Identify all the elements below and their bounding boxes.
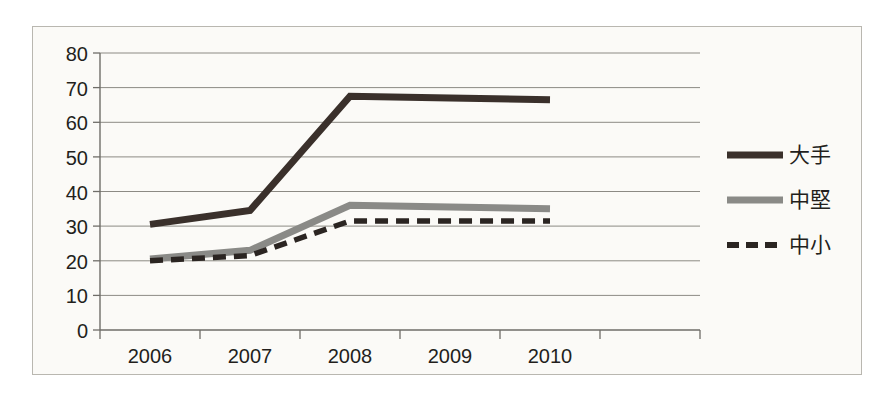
line-chart: 80 70 60 50 40 30 20 10 0 2006 2007 2008… [0, 0, 892, 406]
x-tick-label: 2009 [428, 345, 473, 367]
legend-item-large: 大手 [727, 143, 831, 167]
y-tick-label: 60 [66, 112, 88, 134]
series-group [150, 96, 550, 260]
y-axis-tickmarks [93, 53, 100, 330]
chart-container: 80 70 60 50 40 30 20 10 0 2006 2007 2008… [0, 0, 892, 406]
chart-legend: 大手 中堅 中小 [727, 143, 831, 257]
y-tick-label: 80 [66, 43, 88, 65]
y-tick-label: 20 [66, 251, 88, 273]
y-tick-label: 0 [77, 320, 88, 342]
x-tick-label: 2008 [328, 345, 373, 367]
x-tick-label: 2006 [128, 345, 173, 367]
x-axis-tickmarks [100, 330, 700, 339]
legend-label: 大手 [789, 143, 831, 167]
y-tick-label: 50 [66, 147, 88, 169]
legend-item-small: 中小 [727, 233, 831, 257]
y-axis-labels: 80 70 60 50 40 30 20 10 0 [66, 43, 88, 342]
legend-label: 中小 [789, 233, 831, 257]
y-tick-label: 70 [66, 78, 88, 100]
y-tick-label: 10 [66, 285, 88, 307]
x-tick-label: 2010 [528, 345, 573, 367]
legend-label: 中堅 [789, 188, 831, 212]
y-tick-label: 30 [66, 216, 88, 238]
y-tick-label: 40 [66, 182, 88, 204]
x-tick-label: 2007 [228, 345, 273, 367]
legend-item-medium: 中堅 [727, 188, 831, 212]
x-axis-labels: 2006 2007 2008 2009 2010 [128, 345, 573, 367]
